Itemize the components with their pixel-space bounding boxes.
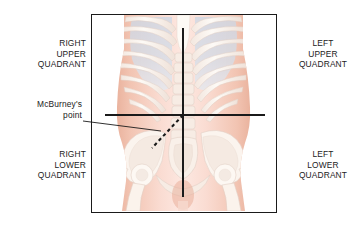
label-right-lower-quadrant: RIGHT LOWER QUADRANT <box>2 149 86 181</box>
label-left-upper-quadrant: LEFT UPPER QUADRANT <box>284 38 362 70</box>
abdominal-quadrants-figure: RIGHT UPPER QUADRANT McBurney's point RI… <box>0 0 364 226</box>
label-mcburneys-point: McBurney's point <box>2 99 82 120</box>
leg-separation <box>178 201 188 211</box>
illustration-frame <box>91 14 277 213</box>
torso-anatomy-svg <box>92 15 275 211</box>
vertebral-column <box>171 53 196 141</box>
label-right-upper-quadrant: RIGHT UPPER QUADRANT <box>2 38 86 70</box>
label-left-lower-quadrant: LEFT LOWER QUADRANT <box>284 149 362 181</box>
anatomy-illustration <box>92 15 276 212</box>
